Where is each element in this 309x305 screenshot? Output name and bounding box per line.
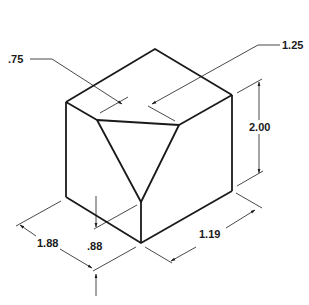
dim-075-leader [30,59,122,104]
dim-119-left [171,247,196,261]
dim-label-075: .75 [8,53,23,65]
dim-125-leader [152,45,280,104]
dim-088-ext [94,205,137,229]
dim-075-ext [100,97,128,113]
dim-188-upper [20,225,36,236]
dim-119-ext-right [236,193,262,208]
dim-125-ext [148,106,175,121]
dim-200-ext-top [237,79,262,93]
dim-label-088: .88 [87,240,102,252]
dim-label-188: 1.88 [37,237,58,249]
cube-outline [66,49,232,243]
dim-188-ext [16,201,61,226]
dim-label-119: 1.19 [199,228,220,240]
isometric-drawing: .75 1.25 2.00 1.88 .88 1.19 [0,0,309,305]
drawing-canvas [0,0,309,305]
dim-119-ext-left [145,247,172,263]
dim-label-125: 1.25 [282,39,303,51]
dim-119-right [226,210,255,228]
dim-label-200: 2.00 [249,121,270,133]
dim-200-ext-bottom [237,171,263,186]
dimension-lines [16,45,280,296]
